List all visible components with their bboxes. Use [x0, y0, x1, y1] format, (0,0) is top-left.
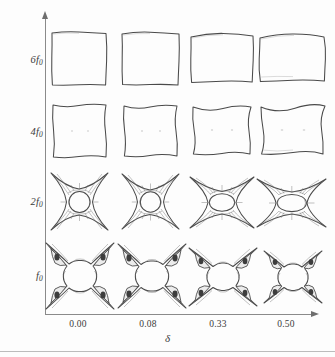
cell-2f0-delta-0.08 [117, 170, 185, 234]
cell-6f0-delta-0.00 [46, 28, 112, 90]
y-tick-f0: f0 [0, 270, 43, 284]
x-axis-line [45, 314, 313, 315]
x-axis-arrow-icon [311, 311, 319, 317]
x-axis-label: δ [0, 332, 335, 344]
cell-f0-delta-0.50 [258, 248, 328, 308]
cell-4f0-delta-0.08 [118, 101, 184, 161]
x-tick-2: 0.33 [190, 319, 246, 329]
x-tick-1: 0.08 [120, 319, 176, 329]
x-tick-3: 0.50 [258, 319, 314, 329]
cell-f0-delta-0.33 [186, 245, 260, 309]
y-tick-sub: 0 [39, 200, 43, 209]
cell-2f0-delta-0.00 [46, 169, 114, 235]
cell-2f0-delta-0.33 [186, 174, 259, 232]
cell-6f0-delta-0.08 [117, 28, 185, 90]
figure-panel: 6f0 4f0 2f0 f0 0.00 0.08 0.33 0.50 δ [0, 0, 335, 357]
y-tick-4f0: 4f0 [0, 126, 43, 140]
cell-4f0-delta-0.50 [255, 103, 331, 159]
y-tick-sub: 0 [39, 130, 43, 139]
y-tick-6f0: 6f0 [0, 54, 43, 68]
y-tick-2f0: 2f0 [0, 196, 43, 210]
y-tick-sub: 0 [39, 58, 43, 67]
page-bottom-rule [0, 351, 335, 352]
cell-6f0-delta-0.50 [254, 31, 330, 87]
cell-f0-delta-0.00 [43, 240, 117, 312]
cell-4f0-delta-0.33 [187, 103, 257, 159]
x-tick-0: 0.00 [50, 319, 106, 329]
cell-6f0-delta-0.33 [186, 30, 258, 88]
y-axis-arrow-icon [42, 11, 48, 19]
cell-4f0-delta-0.00 [47, 100, 113, 162]
cell-f0-delta-0.08 [115, 241, 189, 311]
cell-2f0-delta-0.50 [253, 176, 331, 232]
